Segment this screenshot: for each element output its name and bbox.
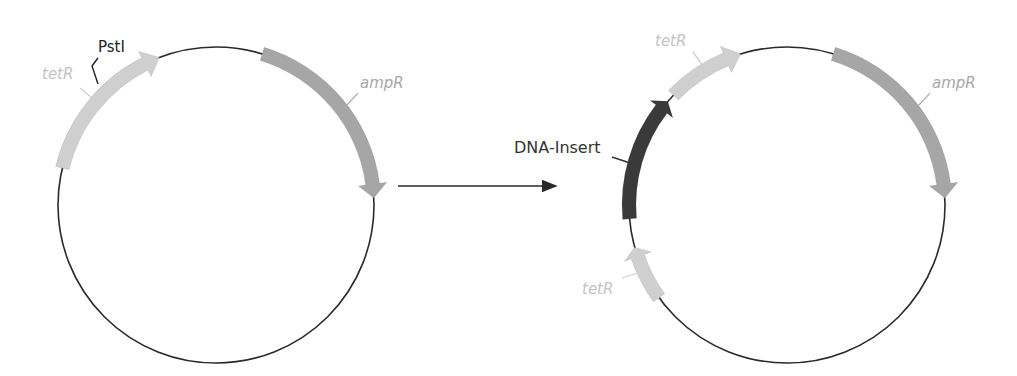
ampR-gene-arrow bbox=[260, 47, 387, 198]
ampR-pointer-right bbox=[918, 93, 930, 106]
tetR-top-pointer bbox=[693, 52, 703, 66]
ampR-gene-arrow-right bbox=[831, 47, 958, 198]
plasmid-diagram: PstI tetR ampR tetR DNA-Insert tetR ampR bbox=[0, 0, 1017, 376]
tetR-pointer bbox=[80, 88, 92, 98]
insert-pointer bbox=[612, 157, 630, 163]
psti-label: PstI bbox=[98, 40, 125, 55]
tetR-bottom-label: tetR bbox=[582, 282, 613, 297]
tetR-top-gene-arrow bbox=[668, 46, 740, 100]
ampR-pointer bbox=[346, 93, 358, 106]
right-plasmid bbox=[612, 46, 958, 363]
tetR-label: tetR bbox=[42, 67, 73, 82]
tetR-bottom-pointer bbox=[622, 273, 638, 278]
dna-insert-arrow bbox=[622, 100, 673, 219]
left-plasmid bbox=[56, 47, 387, 363]
dna-insert-label: DNA-Insert bbox=[514, 140, 601, 156]
ampR-label: ampR bbox=[360, 76, 404, 91]
psti-pointer bbox=[92, 58, 98, 84]
ampR-label-right: ampR bbox=[932, 76, 976, 91]
tetR-top-label: tetR bbox=[655, 34, 686, 49]
tetR-bottom-gene-arrow bbox=[624, 247, 665, 302]
diagram-canvas bbox=[0, 0, 1017, 376]
